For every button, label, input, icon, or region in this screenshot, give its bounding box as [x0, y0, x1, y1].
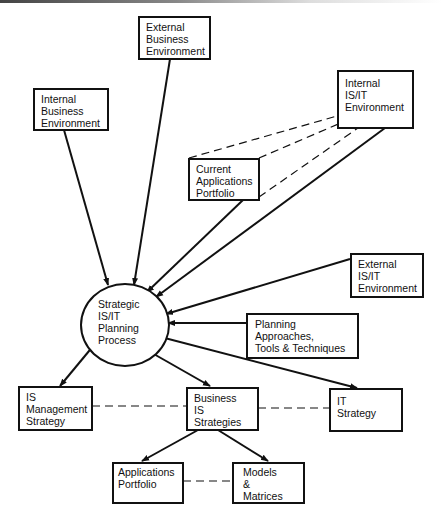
- edge-to-apps-portfolio: [142, 430, 198, 461]
- edge-internal-business: [64, 130, 108, 285]
- node-label: Strategy: [26, 415, 91, 427]
- node-planning-approaches[interactable]: Planning Approaches, Tools & Techniques: [246, 313, 359, 359]
- node-strategic-planning-process[interactable]: Strategic IS/IT Planning Process: [80, 283, 170, 367]
- node-label: Portfolio: [196, 187, 258, 199]
- node-business-is-strategies[interactable]: Business IS Strategies: [186, 387, 259, 431]
- node-label: Applications: [118, 466, 182, 478]
- node-label: Models: [243, 466, 303, 478]
- node-label: Strategic: [98, 298, 168, 310]
- node-external-business-environment[interactable]: External Business Environment: [138, 16, 211, 60]
- edge-to-models: [218, 430, 268, 461]
- node-label: Internal: [345, 77, 412, 89]
- edge-external-business: [134, 59, 170, 285]
- node-label: Business: [41, 105, 107, 117]
- node-label: Current: [196, 163, 258, 175]
- node-label: IS/IT: [358, 270, 422, 282]
- node-label: IS: [194, 404, 257, 416]
- node-internal-isit-environment[interactable]: Internal IS/IT Environment: [337, 70, 414, 129]
- edge-external-isit: [166, 259, 350, 314]
- node-label: Management: [26, 403, 91, 415]
- node-label: Tools & Techniques: [255, 342, 357, 354]
- node-applications-portfolio[interactable]: Applications Portfolio: [112, 462, 184, 504]
- node-label: Applications: [196, 175, 258, 187]
- node-models-matrices[interactable]: Models & Matrices: [232, 462, 305, 504]
- node-label: Business: [194, 392, 257, 404]
- node-label: Approaches,: [255, 330, 357, 342]
- node-label: Process: [98, 334, 168, 346]
- edge-current-apps: [147, 200, 243, 292]
- node-label: Planning: [255, 318, 357, 330]
- node-label: Planning: [98, 322, 168, 334]
- node-external-isit-environment[interactable]: External IS/IT Environment: [350, 253, 424, 298]
- node-label: Portfolio: [118, 478, 182, 490]
- node-label: &: [243, 478, 303, 490]
- node-label: Strategies: [194, 416, 257, 428]
- node-label: Environment: [146, 45, 209, 57]
- node-label: Matrices: [243, 490, 303, 502]
- node-it-strategy[interactable]: IT Strategy: [329, 388, 403, 432]
- node-label: External: [358, 258, 422, 270]
- node-label: Business: [146, 33, 209, 45]
- node-label: Environment: [345, 101, 412, 113]
- node-label: IT: [337, 395, 401, 407]
- node-label: IS: [26, 391, 91, 403]
- node-label: Strategy: [337, 407, 401, 419]
- dashed-projection-top-left: [189, 116, 337, 158]
- node-label: IS/IT: [345, 89, 412, 101]
- node-label: Environment: [41, 117, 107, 129]
- node-is-management-strategy[interactable]: IS Management Strategy: [18, 386, 93, 431]
- node-label: External: [146, 21, 209, 33]
- node-label: Environment: [358, 282, 422, 294]
- node-current-applications-portfolio[interactable]: Current Applications Portfolio: [188, 158, 260, 201]
- node-internal-business-environment[interactable]: Internal Business Environment: [33, 88, 109, 131]
- node-label: Internal: [41, 93, 107, 105]
- dashed-projection-bottom-right: [259, 128, 358, 197]
- node-label: IS/IT: [98, 310, 168, 322]
